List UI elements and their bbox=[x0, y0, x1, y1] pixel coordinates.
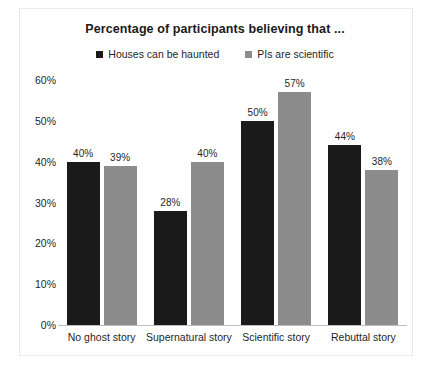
bar-value-label: 40% bbox=[73, 148, 93, 159]
x-axis-category-label: Supernatural story bbox=[146, 331, 232, 343]
y-axis-tick-label: 10% bbox=[4, 278, 56, 290]
bar-value-label: 40% bbox=[197, 148, 217, 159]
bar bbox=[328, 145, 361, 325]
y-axis: 0%10%20%30%40%50%60% bbox=[0, 0, 56, 373]
chart-legend: Houses can be haunted PIs are scientific bbox=[0, 48, 430, 60]
bar-chart: Percentage of participants believing tha… bbox=[0, 0, 430, 373]
bar-group: 40%39% bbox=[58, 80, 145, 325]
bar-group: 44%38% bbox=[320, 80, 407, 325]
legend-entry-pis-are-scientific: PIs are scientific bbox=[245, 48, 333, 60]
legend-label-series-2: PIs are scientific bbox=[257, 48, 333, 60]
bar bbox=[365, 170, 398, 325]
plot-area: 40%39%28%40%50%57%44%38% bbox=[58, 80, 407, 325]
chart-title: Percentage of participants believing tha… bbox=[0, 22, 430, 36]
legend-entry-houses-can-be-haunted: Houses can be haunted bbox=[96, 48, 219, 60]
y-axis-tick-label: 20% bbox=[4, 237, 56, 249]
y-axis-tick-label: 50% bbox=[4, 115, 56, 127]
bar-value-label: 57% bbox=[285, 78, 305, 89]
y-axis-tick-label: 40% bbox=[4, 156, 56, 168]
x-axis-category-label: Scientific story bbox=[242, 331, 310, 343]
bar-group: 50%57% bbox=[233, 80, 320, 325]
legend-label-series-1: Houses can be haunted bbox=[108, 48, 219, 60]
bar-value-label: 28% bbox=[160, 197, 180, 208]
bar bbox=[67, 162, 100, 325]
x-axis-baseline bbox=[58, 325, 407, 326]
bar-value-label: 38% bbox=[372, 156, 392, 167]
bar bbox=[154, 211, 187, 325]
bar-group: 28%40% bbox=[145, 80, 232, 325]
bar bbox=[104, 166, 137, 325]
y-axis-tick-label: 30% bbox=[4, 197, 56, 209]
bar-value-label: 39% bbox=[110, 152, 130, 163]
bar bbox=[191, 162, 224, 325]
x-axis-category-label: No ghost story bbox=[68, 331, 136, 343]
bar bbox=[278, 92, 311, 325]
bar-value-label: 50% bbox=[248, 107, 268, 118]
legend-swatch-series-2 bbox=[245, 51, 252, 58]
y-axis-tick-label: 60% bbox=[4, 74, 56, 86]
y-axis-tick-label: 0% bbox=[4, 319, 56, 331]
bar-value-label: 44% bbox=[335, 131, 355, 142]
x-axis-category-label: Rebuttal story bbox=[331, 331, 396, 343]
bar bbox=[241, 121, 274, 325]
legend-swatch-series-1 bbox=[96, 51, 103, 58]
